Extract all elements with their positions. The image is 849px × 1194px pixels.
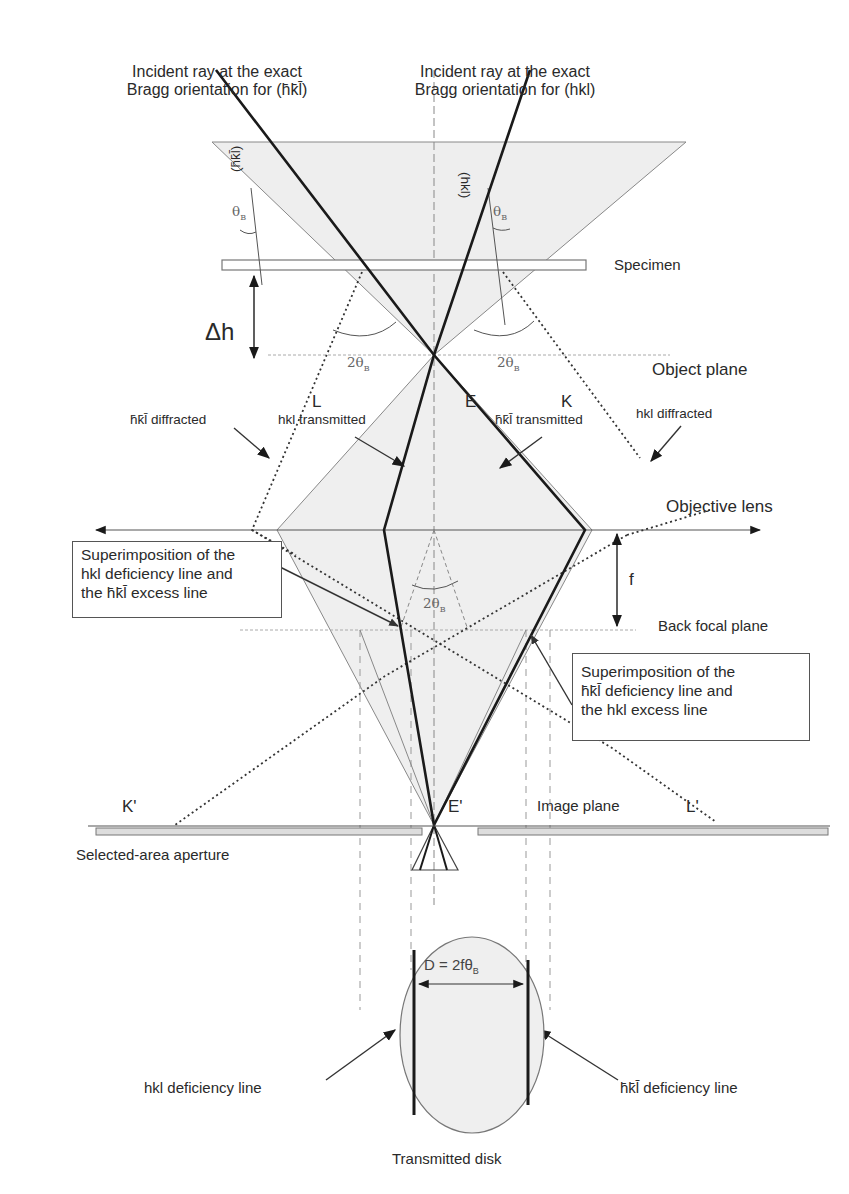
label-back-focal-plane: Back focal plane — [658, 617, 768, 634]
callout-left: Superimposition of the hkl deficiency li… — [72, 541, 282, 618]
label-image-plane: Image plane — [537, 797, 620, 814]
title-right-line2: Bragg orientation for (hkl) — [400, 81, 610, 99]
label-hkl-deficiency-line: hkl deficiency line — [144, 1079, 262, 1096]
disk-width-label: D = 2fθB — [424, 956, 479, 976]
point-K-prime: K' — [122, 797, 137, 817]
plane-label-right: (hkl) — [457, 172, 473, 198]
callout-right-line3: the hkl excess line — [581, 701, 801, 720]
callout-left-line1: Superimposition of the — [81, 546, 273, 565]
label-transmitted-disk: Transmitted disk — [392, 1150, 501, 1167]
label-objective-lens: Objective lens — [666, 497, 773, 517]
two-theta-label-left: 2θB — [347, 355, 370, 373]
title-right: Incident ray at the exact Bragg orientat… — [400, 63, 610, 100]
title-right-line1: Incident ray at the exact — [400, 63, 610, 81]
label-left-diffracted: h̄k̄l̄ diffracted — [130, 412, 206, 428]
theta-label-right: θB — [493, 204, 507, 222]
f-label: f — [629, 570, 634, 590]
label-left-transmitted: hkl transmitted — [278, 412, 366, 428]
aperture-left[interactable] — [96, 828, 422, 835]
label-right-diffracted: hkl diffracted — [636, 406, 712, 422]
point-E: E — [465, 392, 476, 412]
point-L-prime: L' — [686, 797, 699, 817]
theta-arc-left — [240, 230, 256, 234]
label-hkl-bar-deficiency-line: h̄k̄l̄ deficiency line — [620, 1079, 738, 1096]
point-L: L — [312, 392, 321, 412]
callout-left-line3: the h̄k̄l̄ excess line — [81, 584, 273, 603]
illumination-cone — [212, 142, 686, 355]
title-left: Incident ray at the exact Bragg orientat… — [112, 63, 322, 100]
label-selected-area-aperture: Selected-area aperture — [76, 846, 229, 863]
two-theta-arc-right — [474, 321, 534, 336]
point-E-prime: E' — [448, 797, 463, 817]
aperture-right[interactable] — [478, 828, 828, 835]
title-left-line2: Bragg orientation for (h̄k̄l̄) — [112, 81, 322, 99]
title-left-line1: Incident ray at the exact — [112, 63, 322, 81]
two-theta-label-bfp: 2θB — [423, 596, 446, 614]
two-theta-label-right: 2θB — [497, 355, 520, 373]
theta-label-left: θB — [232, 204, 246, 222]
point-K: K — [561, 392, 572, 412]
callout-right-line1: Superimposition of the — [581, 663, 801, 682]
callout-right: Superimposition of the h̄k̄l̄ deficiency… — [572, 653, 810, 741]
callout-left-line2: hkl deficiency line and — [81, 565, 273, 584]
two-theta-arc-left — [333, 322, 396, 336]
label-specimen: Specimen — [614, 256, 681, 273]
delta-h-label: Δh — [205, 318, 234, 346]
plane-label-left: (h̄k̄l̄) — [228, 146, 244, 172]
label-right-transmitted: h̄k̄l̄ transmitted — [495, 412, 583, 428]
callout-right-line2: h̄k̄l̄ deficiency line and — [581, 682, 801, 701]
label-object-plane: Object plane — [652, 360, 747, 380]
specimen — [222, 260, 586, 270]
